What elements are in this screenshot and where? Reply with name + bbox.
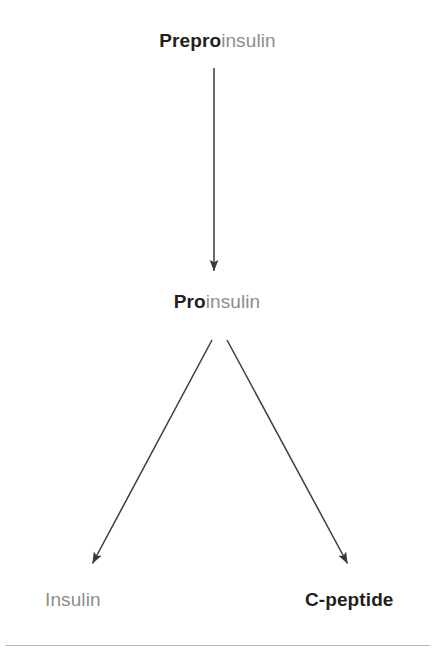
node-proinsulin: Proinsulin bbox=[0, 291, 435, 313]
node-preproinsulin-suffix: insulin bbox=[221, 30, 276, 51]
arrow-layer bbox=[0, 0, 435, 653]
arrow-proinsulin-to-insulin bbox=[93, 340, 213, 564]
bottom-divider bbox=[5, 645, 430, 646]
node-preproinsulin: Preproinsulin bbox=[0, 30, 435, 52]
node-cpeptide: C-peptide bbox=[305, 589, 394, 611]
node-cpeptide-text: C-peptide bbox=[305, 589, 394, 610]
node-proinsulin-suffix: insulin bbox=[206, 291, 261, 312]
node-proinsulin-prefix: Pro bbox=[174, 291, 206, 312]
diagram-canvas: Preproinsulin Proinsulin Insulin C-pepti… bbox=[0, 0, 435, 653]
node-insulin: Insulin bbox=[45, 589, 101, 611]
node-preproinsulin-prefix: Prepro bbox=[159, 30, 221, 51]
node-insulin-text: Insulin bbox=[45, 589, 101, 610]
arrow-proinsulin-to-cpeptide bbox=[227, 340, 348, 564]
